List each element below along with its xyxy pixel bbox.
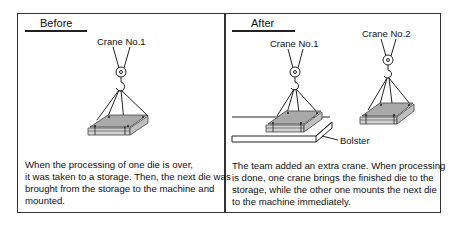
before-die-icon bbox=[88, 115, 148, 135]
before-caption-line: mounted. bbox=[25, 195, 225, 207]
after-caption-line: The team added an extra crane. When proc… bbox=[232, 160, 442, 172]
after-die2-icon bbox=[360, 103, 414, 124]
after-caption: The team added an extra crane. When proc… bbox=[232, 160, 442, 208]
before-caption-line: When the processing of one die is over, bbox=[25, 159, 225, 171]
before-caption-line: it was taken to a storage. Then, the nex… bbox=[25, 171, 225, 183]
after-caption-line: storage, while the other one mounts the … bbox=[232, 184, 442, 196]
after-caption-line: is done, one crane brings the finished d… bbox=[232, 172, 442, 184]
before-caption: When the processing of one die is over, … bbox=[25, 159, 225, 207]
after-die1-icon bbox=[266, 111, 322, 132]
after-caption-line: to the machine immediately. bbox=[232, 196, 442, 208]
before-caption-line: brought from the storage to the machine … bbox=[25, 183, 225, 195]
